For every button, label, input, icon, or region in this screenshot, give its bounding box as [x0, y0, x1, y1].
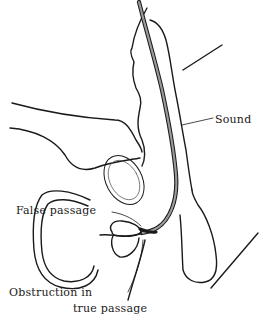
penis-outline-right — [150, 20, 192, 190]
abdominal-line — [183, 45, 222, 70]
sound-instrument-outer — [139, 2, 176, 233]
sound-instrument-inner — [139, 2, 176, 233]
prostate — [111, 221, 141, 236]
label-sound: Sound — [215, 114, 251, 126]
pubic-boundary — [12, 103, 142, 152]
perineum-line — [180, 190, 217, 283]
diagram-canvas: Sound False passage Obstruction in true … — [0, 0, 269, 322]
label-false-passage: False passage — [16, 205, 96, 217]
label-obstruction-line2: true passage — [73, 303, 147, 315]
anatomy-illustration — [0, 0, 269, 322]
label-obstruction-line1: Obstruction in — [9, 287, 92, 299]
pelvis-outline — [10, 128, 140, 169]
sound-leader-line — [182, 118, 213, 125]
penis-outline — [131, 8, 147, 166]
prostate-lower — [112, 236, 139, 257]
pubic-bone-inner — [102, 155, 146, 205]
thigh-line — [211, 233, 258, 288]
false-passage-leader-line — [112, 212, 141, 226]
